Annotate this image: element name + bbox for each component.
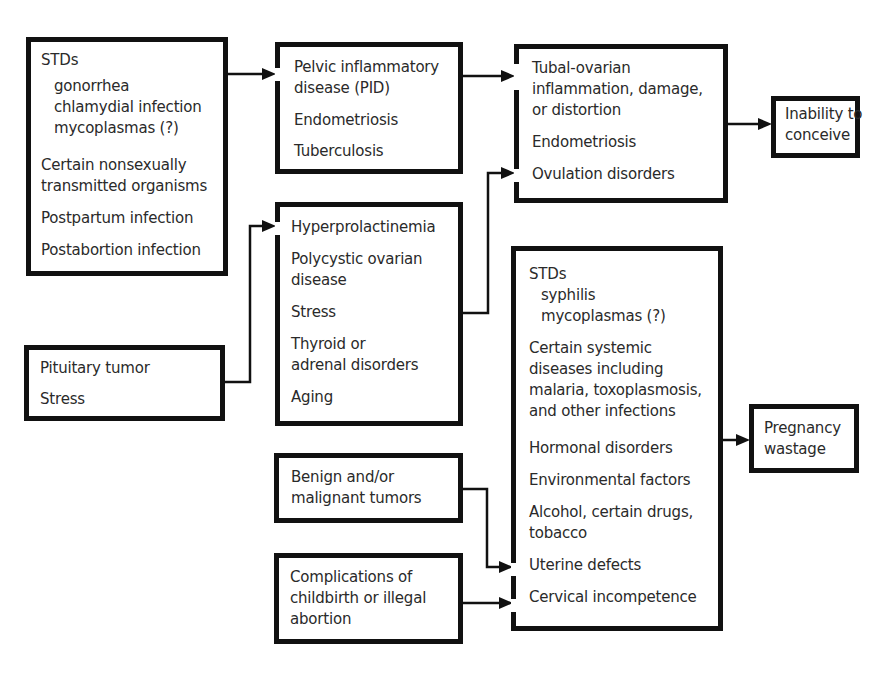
- hormonal-item-1: Hyperprolactinemia: [291, 217, 435, 237]
- tubal-item-2: inflammation, damage,: [532, 79, 703, 99]
- hormonal-item-5: Thyroid or: [291, 334, 365, 354]
- input-notch: [511, 560, 516, 579]
- input-notch: [275, 219, 280, 238]
- stds-sub-3: mycoplasmas (?): [54, 118, 179, 138]
- stds2-sub-1: syphilis: [541, 285, 595, 305]
- stds2-item-3: malaria, toxoplasmosis,: [529, 380, 702, 400]
- input-notch: [514, 166, 519, 185]
- wastage-line-2: wastage: [764, 439, 826, 459]
- stds-item-4: Postabortion infection: [41, 240, 201, 260]
- hormonal-item-7: Aging: [291, 387, 333, 407]
- stds2-item-2: diseases including: [529, 359, 663, 379]
- stds2-item-10: Cervical incompetence: [529, 587, 697, 607]
- stds-sub-1: gonorrhea: [54, 76, 129, 96]
- stds2-item-5: Hormonal disorders: [529, 438, 673, 458]
- tumors-line-1: Benign and/or: [291, 467, 394, 487]
- stds2-item-6: Environmental factors: [529, 470, 690, 490]
- stds2-heading: STDs: [529, 264, 566, 284]
- wastage-line-1: Pregnancy: [764, 418, 841, 438]
- hormonal-item-2: Polycystic ovarian: [291, 249, 422, 269]
- input-notch: [511, 596, 516, 615]
- tubal-item-4: Endometriosis: [532, 132, 636, 152]
- complications-line-2: childbirth or illegal: [290, 588, 426, 608]
- stds2-sub-2: mycoplasmas (?): [541, 306, 666, 326]
- stds-sub-2: chlamydial infection: [54, 97, 202, 117]
- complications-line-3: abortion: [290, 609, 351, 629]
- hormonal-item-3: disease: [291, 270, 347, 290]
- hormonal-item-4: Stress: [291, 302, 336, 322]
- complications-line-1: Complications of: [290, 567, 412, 587]
- box-pituitary: [24, 345, 225, 421]
- pid-item-2: disease (PID): [294, 78, 390, 98]
- hormonal-item-6: adrenal disorders: [291, 355, 418, 375]
- tubal-item-5: Ovulation disorders: [532, 164, 675, 184]
- stds2-item-1: Certain systemic: [529, 338, 652, 358]
- pituitary-item-1: Pituitary tumor: [40, 358, 150, 378]
- inability-line-1: Inability to: [785, 104, 862, 124]
- pituitary-item-2: Stress: [40, 389, 85, 409]
- tubal-item-3: or distortion: [532, 100, 621, 120]
- tubal-item-1: Tubal-ovarian: [532, 58, 631, 78]
- input-notch: [275, 65, 280, 84]
- pid-item-1: Pelvic inflammatory: [294, 57, 439, 77]
- stds-item-2: transmitted organisms: [41, 176, 207, 196]
- input-notch: [514, 61, 519, 93]
- stds2-item-9: Uterine defects: [529, 555, 641, 575]
- stds-item-3: Postpartum infection: [41, 208, 193, 228]
- inability-line-2: conceive: [785, 125, 850, 145]
- tumors-line-2: malignant tumors: [291, 488, 421, 508]
- stds2-item-4: and other infections: [529, 401, 676, 421]
- pid-item-4: Tuberculosis: [294, 141, 383, 161]
- stds-heading: STDs: [41, 50, 78, 70]
- stds-item-1: Certain nonsexually: [41, 155, 186, 175]
- stds2-item-7: Alcohol, certain drugs,: [529, 502, 693, 522]
- stds2-item-8: tobacco: [529, 523, 587, 543]
- pid-item-3: Endometriosis: [294, 110, 398, 130]
